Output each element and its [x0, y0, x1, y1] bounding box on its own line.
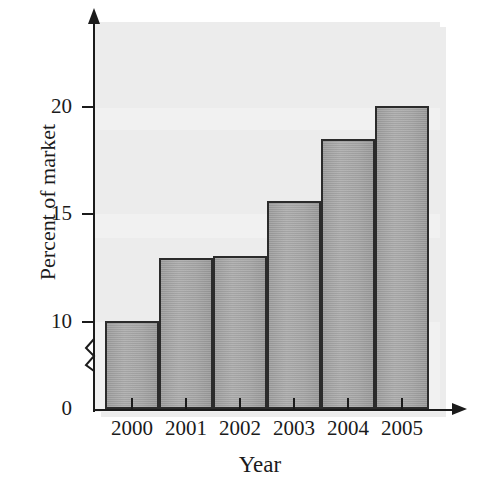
- x-axis-title: Year: [160, 452, 360, 478]
- x-tick-2001: [185, 398, 187, 409]
- bar-2002: [213, 256, 267, 409]
- x-tick-label-2005: 2005: [370, 416, 434, 440]
- y-tick-label-10: 10: [26, 311, 72, 332]
- bar-chart-figure: 20 15 10 0 2000 2001 2002 2003 2004 2005…: [0, 0, 480, 496]
- bar-2004: [321, 139, 375, 409]
- bar-2000: [105, 321, 159, 409]
- y-tick-label-0: 0: [26, 398, 72, 419]
- y-tick-10: [82, 321, 94, 323]
- x-tick-2005: [401, 398, 403, 409]
- bar-2001: [159, 258, 213, 409]
- x-tick-2002: [239, 398, 241, 409]
- x-tick-2003: [293, 398, 295, 409]
- y-axis-title: Percent of market: [36, 92, 60, 312]
- bar-2003: [267, 201, 321, 409]
- x-tick-2000: [131, 398, 133, 409]
- bar-2005: [375, 106, 429, 409]
- axis-break-icon: [80, 338, 100, 372]
- y-tick-20: [82, 106, 94, 108]
- x-axis-arrow-icon: [452, 403, 467, 415]
- x-tick-2004: [347, 398, 349, 409]
- panel-band-upper: [95, 22, 440, 108]
- x-axis-line: [93, 409, 460, 411]
- y-axis-arrow-icon: [88, 8, 100, 24]
- y-tick-15: [82, 213, 94, 215]
